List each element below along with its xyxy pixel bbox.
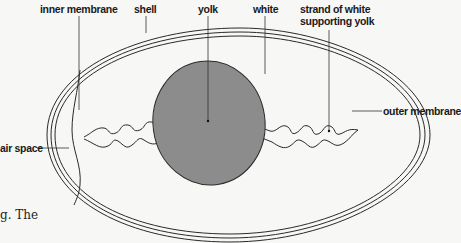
right-chalaza: [262, 126, 358, 148]
label-strand-line-1: strand of white: [300, 3, 370, 15]
background-text-fragment: g. The: [0, 208, 38, 222]
label-air-space: air space: [0, 142, 43, 154]
yolk-pointer-dot: [207, 120, 209, 122]
label-strand-line-2: supporting yolk: [300, 15, 374, 27]
label-shell: shell: [134, 3, 156, 15]
label-yolk: yolk: [198, 3, 218, 15]
label-outer-membrane: outer membrane: [383, 105, 461, 117]
strand-pointer-dot: [328, 130, 330, 132]
yolk-shape: [145, 54, 273, 192]
label-white: white: [253, 3, 278, 15]
label-inner-membrane: inner membrane: [40, 3, 118, 15]
